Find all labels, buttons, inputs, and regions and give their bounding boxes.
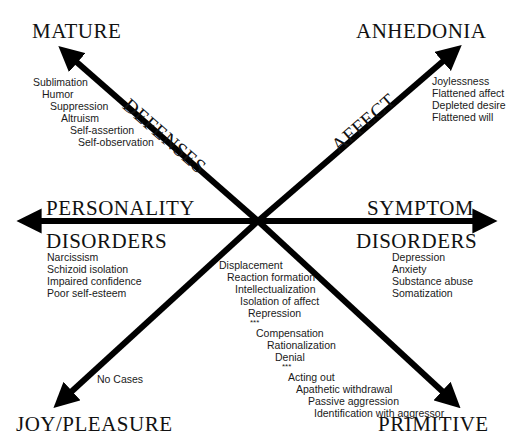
list-item: Apathetic withdrawal <box>296 383 444 395</box>
separator-stars: *** <box>282 363 444 371</box>
defense-diagram: MATURE ANHEDONIA JOY/PLEASURE PRIMITIVE … <box>0 0 521 444</box>
list-item: Compensation <box>256 327 444 339</box>
list-item: Repression <box>248 307 444 319</box>
list-item: Self-assertion <box>70 124 154 136</box>
corner-label-joy-pleasure: JOY/PLEASURE <box>16 413 173 435</box>
mature-defenses-list: Sublimation Humor Suppression Altruism S… <box>33 76 154 148</box>
list-item: Altruism <box>61 112 154 124</box>
list-item: Self-observation <box>78 136 154 148</box>
list-item: Reaction formation <box>227 271 444 283</box>
list-item: Joylessness <box>432 75 506 87</box>
separator-stars: *** <box>250 319 444 327</box>
axis-label-symptom: SYMPTOM <box>367 197 474 219</box>
list-item: Impaired confidence <box>47 275 142 287</box>
axis-label-personality-disorders: DISORDERS <box>46 230 167 252</box>
list-item: Identification with aggressor <box>314 407 444 419</box>
list-item: Suppression <box>50 100 154 112</box>
anhedonia-list: Joylessness Flattened affect Depleted de… <box>432 75 506 123</box>
list-item: Denial <box>275 351 444 363</box>
joy-pleasure-list-item: No Cases <box>97 373 143 385</box>
list-item: Intellectualization <box>235 283 444 295</box>
list-item: Acting out <box>288 371 444 383</box>
list-item: Passive aggression <box>308 395 444 407</box>
corner-label-mature: MATURE <box>32 20 121 42</box>
axis-label-symptom-disorders: DISORDERS <box>356 230 477 252</box>
primitive-defenses-list: Displacement Reaction formation Intellec… <box>219 259 444 419</box>
personality-disorders-list: Narcissism Schizoid isolation Impaired c… <box>47 251 142 299</box>
list-item: Isolation of affect <box>240 295 444 307</box>
list-item: Poor self-esteem <box>47 287 142 299</box>
corner-label-anhedonia: ANHEDONIA <box>356 20 486 42</box>
list-item: Narcissism <box>47 251 142 263</box>
list-item: Rationalization <box>267 339 444 351</box>
list-item: Flattened affect <box>432 87 506 99</box>
list-item: Schizoid isolation <box>47 263 142 275</box>
list-item: Humor <box>42 88 154 100</box>
list-item: Sublimation <box>33 76 154 88</box>
list-item: Displacement <box>219 259 444 271</box>
list-item: Depleted desire <box>432 99 506 111</box>
list-item: Flattened will <box>432 111 506 123</box>
axis-label-personality: PERSONALITY <box>46 197 195 219</box>
